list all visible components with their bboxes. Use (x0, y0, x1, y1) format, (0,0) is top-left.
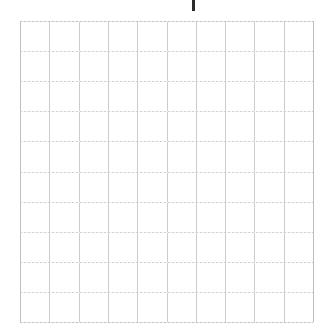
grid-cell[interactable] (108, 111, 137, 141)
grid-cell[interactable] (79, 292, 108, 322)
grid-cell[interactable] (137, 111, 166, 141)
grid-cell[interactable] (254, 262, 283, 292)
grid-cell[interactable] (79, 21, 108, 51)
grid-cell[interactable] (284, 81, 313, 111)
grid-cell[interactable] (49, 141, 78, 171)
grid-cell[interactable] (20, 111, 49, 141)
grid-cell[interactable] (167, 172, 196, 202)
grid-cell[interactable] (49, 232, 78, 262)
grid-cell[interactable] (79, 81, 108, 111)
grid-cell[interactable] (196, 262, 225, 292)
grid-cell[interactable] (254, 202, 283, 232)
grid-cell[interactable] (49, 111, 78, 141)
grid-cell[interactable] (137, 232, 166, 262)
grid-cell[interactable] (167, 51, 196, 81)
grid-cell[interactable] (284, 172, 313, 202)
grid-cell[interactable] (196, 111, 225, 141)
grid-cell[interactable] (225, 202, 254, 232)
grid-cell[interactable] (49, 262, 78, 292)
grid-cell[interactable] (49, 172, 78, 202)
grid-cell[interactable] (49, 21, 78, 51)
grid-cell[interactable] (79, 262, 108, 292)
grid-cell[interactable] (20, 262, 49, 292)
grid-cell[interactable] (196, 141, 225, 171)
grid-cell[interactable] (284, 232, 313, 262)
grid-cell[interactable] (137, 292, 166, 322)
grid-cell[interactable] (137, 51, 166, 81)
grid-cell[interactable] (167, 141, 196, 171)
grid-container[interactable] (20, 21, 313, 322)
grid-cell[interactable] (196, 81, 225, 111)
grid-cell[interactable] (225, 51, 254, 81)
grid-cell[interactable] (254, 51, 283, 81)
grid-cell[interactable] (79, 51, 108, 81)
grid-cell[interactable] (20, 172, 49, 202)
grid-cell[interactable] (284, 51, 313, 81)
grid-cell[interactable] (284, 21, 313, 51)
grid-cell[interactable] (137, 81, 166, 111)
grid-cell[interactable] (167, 111, 196, 141)
grid-cell[interactable] (254, 21, 283, 51)
grid-cell[interactable] (108, 141, 137, 171)
grid-cell[interactable] (284, 202, 313, 232)
grid-cell[interactable] (20, 81, 49, 111)
grid-cell[interactable] (108, 292, 137, 322)
grid-cell[interactable] (20, 51, 49, 81)
grid-cell[interactable] (225, 141, 254, 171)
grid-cell[interactable] (79, 111, 108, 141)
grid-cell[interactable] (20, 141, 49, 171)
grid-cell[interactable] (254, 81, 283, 111)
grid-cell[interactable] (79, 232, 108, 262)
grid-cell[interactable] (225, 111, 254, 141)
grid-cell[interactable] (225, 81, 254, 111)
grid-cell[interactable] (20, 292, 49, 322)
grid-cell[interactable] (137, 172, 166, 202)
grid-cell[interactable] (284, 111, 313, 141)
grid-cell[interactable] (108, 232, 137, 262)
grid-cell[interactable] (254, 141, 283, 171)
grid-cell[interactable] (108, 21, 137, 51)
grid-cell[interactable] (108, 262, 137, 292)
grid-cell[interactable] (225, 232, 254, 262)
grid-cell[interactable] (49, 292, 78, 322)
grid-cell[interactable] (137, 202, 166, 232)
grid-cell[interactable] (167, 292, 196, 322)
grid-cell[interactable] (167, 21, 196, 51)
grid-cell[interactable] (196, 21, 225, 51)
grid-cell[interactable] (225, 292, 254, 322)
grid-cell[interactable] (167, 262, 196, 292)
grid-cell[interactable] (254, 111, 283, 141)
grid-cell[interactable] (254, 292, 283, 322)
grid-cell[interactable] (225, 21, 254, 51)
grid-cell[interactable] (79, 141, 108, 171)
grid-cell[interactable] (108, 81, 137, 111)
grid-cell[interactable] (196, 51, 225, 81)
grid-cell[interactable] (284, 141, 313, 171)
grid-cell[interactable] (20, 21, 49, 51)
grid-cell[interactable] (108, 172, 137, 202)
grid-cell[interactable] (137, 262, 166, 292)
grid-cell[interactable] (79, 202, 108, 232)
grid-cell[interactable] (196, 232, 225, 262)
grid-cell[interactable] (108, 51, 137, 81)
grid-cell[interactable] (167, 81, 196, 111)
grid-cell[interactable] (49, 81, 78, 111)
grid-cell[interactable] (20, 232, 49, 262)
grid-cell[interactable] (225, 172, 254, 202)
grid-cell[interactable] (79, 172, 108, 202)
grid-cell[interactable] (49, 51, 78, 81)
grid-cell[interactable] (167, 202, 196, 232)
grid-cell[interactable] (284, 292, 313, 322)
grid-cell[interactable] (225, 262, 254, 292)
grid-cell[interactable] (196, 172, 225, 202)
grid-cell[interactable] (167, 232, 196, 262)
grid-cell[interactable] (284, 262, 313, 292)
grid-cell[interactable] (254, 172, 283, 202)
grid-cell[interactable] (20, 202, 49, 232)
grid-cell[interactable] (196, 292, 225, 322)
grid-cell[interactable] (137, 21, 166, 51)
grid-cell[interactable] (49, 202, 78, 232)
grid-cell[interactable] (108, 202, 137, 232)
grid-cell[interactable] (254, 232, 283, 262)
grid-cell[interactable] (137, 141, 166, 171)
